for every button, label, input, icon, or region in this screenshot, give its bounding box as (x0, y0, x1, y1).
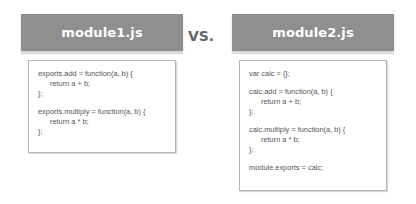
code-line: return a * b; (249, 135, 386, 145)
module2-code-box: var calc = {};calc.add = function(a, b) … (239, 60, 387, 191)
code-line: return a + b; (38, 79, 175, 89)
module2-title: module2.js (272, 25, 354, 40)
code-line: calc.add = function(a, b) { (249, 87, 386, 97)
code-line: }; (38, 89, 175, 99)
module1-title-bar: module1.js (21, 14, 183, 51)
code-line: exports.add = function(a, b) { (38, 69, 175, 79)
code-line: }; (249, 107, 386, 117)
code-line: }; (249, 145, 386, 155)
module2-title-bar: module2.js (232, 14, 394, 51)
code-line (249, 117, 386, 125)
module1-code-box: exports.add = function(a, b) {return a +… (28, 60, 176, 153)
vs-label: VS. (186, 28, 216, 44)
code-line: calc.multiply = function(a, b) { (249, 125, 386, 135)
code-line (249, 155, 386, 163)
code-line (38, 99, 175, 107)
code-line: return a + b; (249, 97, 386, 107)
code-line: var calc = {}; (249, 69, 386, 79)
comparison-diagram: module1.js VS. module2.js exports.add = … (0, 0, 416, 204)
code-line: }; (38, 127, 175, 137)
code-line (249, 79, 386, 87)
module1-title: module1.js (61, 25, 143, 40)
code-line: module.exports = calc; (249, 163, 386, 173)
code-line: return a * b; (38, 117, 175, 127)
code-line: exports.multiply = function(a, b) { (38, 107, 175, 117)
